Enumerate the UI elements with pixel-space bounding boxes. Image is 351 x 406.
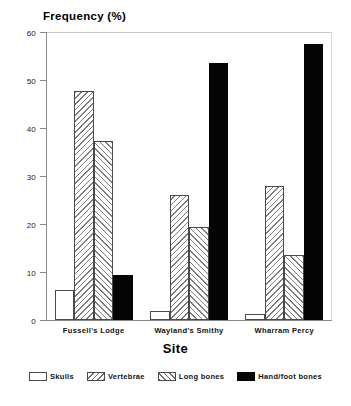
bar-vertebrae-group-2: [170, 195, 190, 320]
bar-vertebrae-group-3: [265, 186, 285, 320]
legend-item-handfoot[interactable]: Hand/foot bones: [237, 372, 322, 381]
bar-skulls-group-1: [55, 290, 75, 320]
y-axis-title: Frequency (%): [43, 10, 126, 22]
legend-swatch-skulls: [29, 372, 47, 381]
y-axis-tick-label: 20: [27, 220, 36, 229]
y-axis-tick-label: 10: [27, 268, 36, 277]
bar-handfoot-group-3: [304, 44, 324, 320]
x-axis-group-label: Wayland's Smithy: [154, 326, 223, 335]
y-axis-tick-label: 0: [31, 316, 36, 325]
legend-swatch-vertebrae: [87, 372, 105, 381]
legend-item-skulls[interactable]: Skulls: [29, 372, 74, 381]
bar-chart-figure: Frequency (%) 0102030405060 Fussell's Lo…: [0, 0, 351, 406]
legend-label: Long bones: [179, 372, 225, 381]
bar-handfoot-group-1: [113, 275, 133, 320]
x-axis-title: Site: [0, 341, 351, 356]
x-axis-group-label: Wharram Percy: [255, 326, 315, 335]
legend-swatch-handfoot: [237, 372, 255, 381]
bar-handfoot-group-2: [209, 63, 229, 320]
bar-vertebrae-group-1: [74, 91, 94, 320]
legend-label: Skulls: [50, 372, 74, 381]
plot-area: [46, 32, 332, 320]
x-axis-group-label: Fussell's Lodge: [63, 326, 125, 335]
legend-label: Hand/foot bones: [258, 372, 322, 381]
bar-longbones-group-2: [189, 227, 209, 320]
bar-longbones-group-3: [284, 255, 304, 320]
bar-skulls-group-2: [150, 311, 170, 320]
y-axis-tick-label: 30: [27, 172, 36, 181]
chart-legend: SkullsVertebraeLong bonesHand/foot bones: [0, 372, 351, 381]
y-axis-tick-label: 40: [27, 124, 36, 133]
y-axis-tick-label: 60: [27, 28, 36, 37]
x-axis-line: [46, 320, 332, 321]
bar-longbones-group-1: [94, 141, 114, 320]
legend-item-vertebrae[interactable]: Vertebrae: [87, 372, 145, 381]
legend-swatch-longbones: [158, 372, 176, 381]
y-axis-tick: 0: [40, 320, 46, 321]
legend-item-longbones[interactable]: Long bones: [158, 372, 225, 381]
y-axis-tick-label: 50: [27, 76, 36, 85]
legend-label: Vertebrae: [108, 372, 145, 381]
bar-skulls-group-3: [245, 314, 265, 320]
